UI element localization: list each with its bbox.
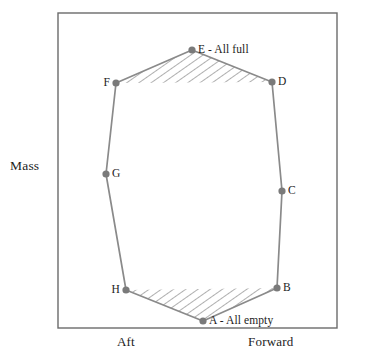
vertex-marker-h (122, 286, 129, 293)
x-axis-label-forward: Forward (248, 334, 293, 350)
vertex-marker-c (278, 187, 285, 194)
point-label-d: D (278, 75, 286, 87)
point-label-h: H (112, 283, 120, 295)
vertex-marker-g (102, 170, 109, 177)
point-label-a: A - All empty (209, 314, 273, 326)
vertex-marker-a (199, 317, 206, 324)
envelope-plot-svg (0, 0, 369, 360)
vertex-marker-f (112, 79, 119, 86)
vertex-marker-group (102, 46, 285, 324)
point-label-b: B (283, 281, 291, 293)
point-label-g: G (112, 167, 120, 179)
cg-envelope-outline (106, 50, 282, 321)
vertex-marker-e (188, 46, 195, 53)
vertex-marker-b (273, 284, 280, 291)
point-label-f: F (104, 76, 111, 88)
y-axis-label: Mass (10, 158, 39, 174)
cg-envelope-figure: Mass Aft Forward A - All emptyBCDE - All… (0, 0, 369, 360)
point-label-c: C (288, 184, 296, 196)
x-axis-label-aft: Aft (117, 334, 135, 350)
vertex-marker-d (268, 78, 275, 85)
point-label-e: E - All full (198, 43, 249, 55)
